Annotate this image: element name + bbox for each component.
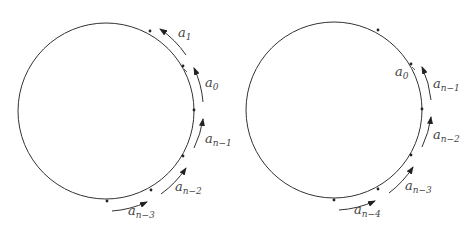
right-circle-figure: a0 an−1 an−2 an−3 an−4 (246, 22, 460, 219)
vertex-dot (421, 108, 424, 111)
vertex-dot (106, 200, 109, 203)
arc-arrow-an-2 (422, 117, 431, 147)
label-an-3: an−3 (405, 178, 432, 195)
diagram-canvas: a1 a0 an−1 an−2 an−3 a0 an−1 an−2 (0, 0, 476, 229)
arc-arrow-a0 (194, 68, 203, 102)
vertex-dot (410, 63, 413, 66)
label-an-1: an−1 (205, 131, 232, 148)
label-a0: a0 (395, 64, 409, 81)
label-an-2: an−2 (433, 127, 460, 144)
left-arc-arrows (112, 29, 203, 211)
left-vertices (106, 30, 196, 203)
label-a0: a0 (205, 75, 219, 92)
left-circle (18, 23, 194, 199)
vertex-dot (193, 109, 196, 112)
arc-arrow-an-1 (194, 119, 203, 148)
arc-arrow-an-1 (422, 67, 431, 100)
right-vertices (333, 29, 424, 202)
left-circle-figure: a1 a0 an−1 an−2 an−3 (18, 23, 232, 220)
label-an-2: an−2 (175, 179, 202, 196)
vertex-dot (182, 65, 185, 68)
vertex-dot (149, 30, 152, 33)
label-a1: a1 (178, 25, 192, 42)
vertex-dot (377, 29, 380, 32)
vertex-dot (410, 154, 413, 157)
vertex-dot (150, 189, 153, 192)
label-an-3: an−3 (128, 203, 155, 220)
right-circle (246, 22, 422, 198)
vertex-dot (333, 199, 336, 202)
label-an-1: an−1 (433, 76, 460, 93)
vertex-dot (182, 155, 185, 158)
right-labels: a0 an−1 an−2 an−3 an−4 (354, 64, 460, 219)
vertex-dot (377, 188, 380, 191)
